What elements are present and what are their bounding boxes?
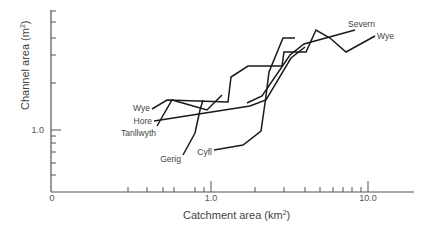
x-axis-title: Catchment area (km2) — [183, 209, 290, 221]
y-ticks — [51, 11, 61, 175]
y-tick-label-1: 1.0 — [31, 125, 44, 135]
series-line-wye — [152, 30, 375, 109]
series-label-wye-right: Wye — [377, 31, 394, 41]
chart-canvas: 1.0 0 1.0 10.0 Catchment area (km2) Chan… — [0, 0, 431, 236]
series-label-cyfl: Cyfl — [197, 147, 212, 157]
y-axis-title: Channel area (m2) — [19, 20, 31, 110]
x-tick-label-1: 1.0 — [205, 193, 218, 203]
series-label-wye-left: Wye — [133, 103, 150, 113]
series-label-hore: Hore — [134, 116, 153, 126]
series-label-severn: Severn — [348, 19, 375, 29]
x-tick-label-0: 0 — [49, 193, 54, 203]
series-label-tanllwyth: Tanllwyth — [121, 128, 156, 138]
series-label-gerig: Gerig — [160, 154, 181, 164]
x-ticks — [128, 181, 368, 192]
x-tick-label-10: 10.0 — [359, 193, 377, 203]
